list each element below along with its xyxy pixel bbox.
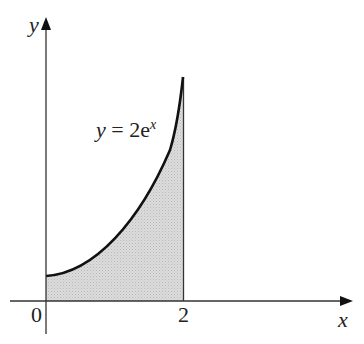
curve-label-prefix: y bbox=[96, 117, 106, 142]
x-axis-label: x bbox=[338, 309, 348, 331]
y-axis-label: y bbox=[29, 14, 39, 36]
x-axis-arrow-icon bbox=[340, 296, 353, 306]
plot-canvas bbox=[0, 0, 364, 344]
curve-label-exponent: x bbox=[150, 117, 156, 132]
y-axis-arrow-icon bbox=[41, 17, 51, 30]
tick-label-2: 2 bbox=[178, 304, 189, 326]
shaded-area bbox=[46, 77, 183, 301]
curve-label: y = 2ex bbox=[96, 118, 156, 141]
origin-label: 0 bbox=[31, 304, 42, 326]
curve-label-eq: = 2e bbox=[106, 117, 150, 142]
